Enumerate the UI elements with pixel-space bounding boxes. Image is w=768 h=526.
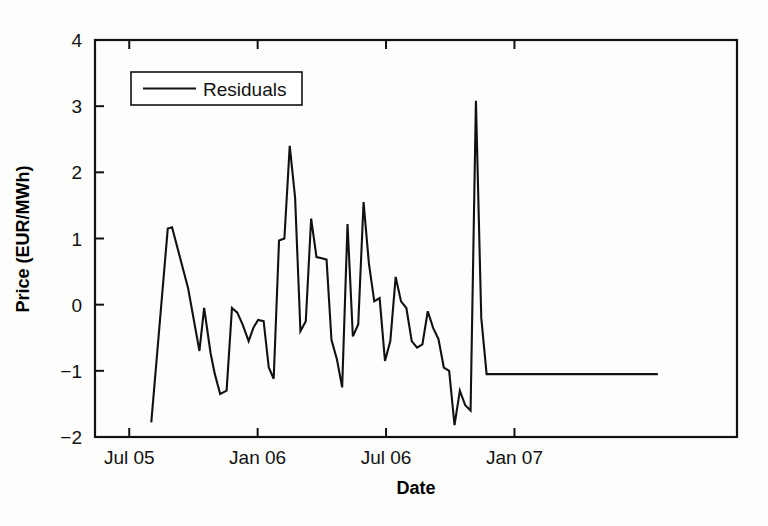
- figure-container: −2−101234 Jul 05Jan 06Jul 06Jan 07 Resid…: [0, 0, 768, 526]
- legend[interactable]: Residuals: [131, 72, 302, 105]
- residuals-line-chart: −2−101234 Jul 05Jan 06Jul 06Jan 07 Resid…: [0, 0, 768, 526]
- legend-entry-label: Residuals: [203, 79, 286, 100]
- x-axis-tick-labels: Jul 05Jan 06Jul 06Jan 07: [104, 447, 543, 468]
- x-tick-label: Jul 05: [104, 447, 155, 468]
- y-tick-label: −1: [60, 361, 82, 382]
- data-series-line: [151, 101, 658, 425]
- y-tick-label: 1: [71, 229, 82, 250]
- y-tick-label: −2: [60, 427, 82, 448]
- x-tick-label: Jul 06: [361, 447, 412, 468]
- y-tick-label: 2: [71, 162, 82, 183]
- x-tick-label: Jan 07: [486, 447, 543, 468]
- y-axis-title: Price (EUR/MWh): [13, 165, 33, 312]
- y-tick-label: 4: [71, 30, 82, 51]
- y-axis-tick-marks: [95, 40, 104, 437]
- y-axis-tick-labels: −2−101234: [60, 30, 82, 448]
- x-tick-label: Jan 06: [229, 447, 286, 468]
- y-tick-label: 0: [71, 295, 82, 316]
- y-tick-label: 3: [71, 96, 82, 117]
- data-series-group: [151, 101, 658, 425]
- x-axis-title: Date: [396, 478, 435, 498]
